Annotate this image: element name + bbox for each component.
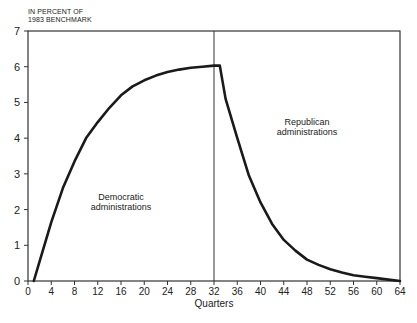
series-line — [34, 66, 400, 281]
annotation-republican-line-1: Republican — [277, 117, 338, 127]
x-tick-label: 28 — [185, 286, 197, 297]
x-tick-label: 64 — [394, 286, 406, 297]
x-tick-label: 16 — [115, 286, 127, 297]
x-tick-label: 52 — [325, 286, 337, 297]
x-tick-label: 36 — [232, 286, 244, 297]
x-tick-label: 24 — [162, 286, 174, 297]
annotation-democratic-line-2: administrations — [91, 202, 152, 212]
annotation-democratic: Democratic administrations — [91, 192, 152, 212]
y-tick-label: 2 — [14, 204, 20, 216]
x-tick-label: 60 — [371, 286, 383, 297]
annotation-democratic-line-1: Democratic — [91, 192, 152, 202]
y-tick-label: 5 — [14, 96, 20, 108]
y-tick-label: 0 — [14, 275, 20, 287]
x-tick-label: 48 — [301, 286, 313, 297]
annotation-republican: Republican administrations — [277, 117, 338, 137]
x-tick-label: 44 — [278, 286, 290, 297]
y-tick-label: 3 — [14, 168, 20, 180]
x-tick-label: 32 — [208, 286, 220, 297]
annotation-republican-line-2: administrations — [277, 127, 338, 137]
x-tick-label: 40 — [255, 286, 267, 297]
y-tick-label: 1 — [14, 239, 20, 251]
y-tick-label: 7 — [14, 25, 20, 37]
x-tick-label: 4 — [48, 286, 54, 297]
x-tick-label: 56 — [348, 286, 360, 297]
x-axis-title: Quarters — [195, 298, 234, 309]
x-tick-label: 8 — [72, 286, 78, 297]
y-tick-label: 4 — [14, 132, 20, 144]
chart: 012345670481216202428323640444852566064 — [0, 0, 417, 323]
x-tick-label: 12 — [92, 286, 104, 297]
x-tick-label: 20 — [139, 286, 151, 297]
y-tick-label: 6 — [14, 61, 20, 73]
x-tick-label: 0 — [25, 286, 31, 297]
